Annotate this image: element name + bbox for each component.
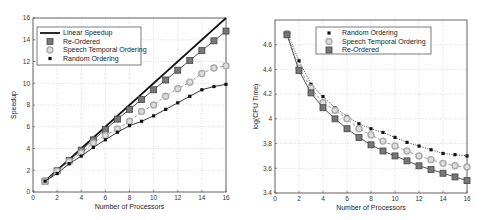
square-marker-icon xyxy=(416,163,422,169)
square-marker-icon xyxy=(199,48,205,54)
y-tick-label: 16 xyxy=(23,14,31,21)
square-marker-icon xyxy=(380,148,386,154)
dot-marker-icon xyxy=(176,101,179,104)
dot-marker-icon xyxy=(188,95,191,98)
circle-marker-icon xyxy=(102,132,108,138)
square-marker-icon xyxy=(127,106,133,112)
square-marker-icon xyxy=(211,38,217,44)
square-marker-icon xyxy=(114,116,120,122)
square-marker-icon xyxy=(464,178,470,184)
y-tick-label: 0 xyxy=(26,188,30,195)
dot-marker-icon xyxy=(68,162,71,165)
circle-marker-icon xyxy=(452,163,458,169)
y-tick-label: 12 xyxy=(23,58,31,65)
square-marker-icon xyxy=(175,67,181,73)
series-line xyxy=(287,35,467,181)
square-marker-icon xyxy=(368,142,374,148)
dot-marker-icon xyxy=(56,172,59,175)
circle-marker-icon xyxy=(428,157,434,163)
circle-marker-icon xyxy=(392,143,398,149)
circle-marker-icon xyxy=(90,140,96,146)
dot-marker-icon xyxy=(140,120,143,123)
y-tick-label: 2 xyxy=(26,167,30,174)
square-marker-icon xyxy=(151,87,157,93)
y-tick-label: 3.6 xyxy=(263,165,272,172)
figure-canvas: 02468101214160246810121416Number of Proc… xyxy=(0,0,484,220)
square-marker-icon xyxy=(223,28,229,34)
square-marker-icon xyxy=(356,134,362,140)
dot-marker-icon xyxy=(453,153,456,156)
dot-marker-icon xyxy=(441,152,444,155)
square-marker-icon xyxy=(308,90,314,96)
y-tick-label: 4.4 xyxy=(263,66,272,73)
dot-marker-icon xyxy=(164,108,167,111)
circle-marker-icon xyxy=(440,160,446,166)
y-tick-label: 3.4 xyxy=(263,189,272,196)
square-marker-icon xyxy=(440,170,446,176)
y-tick-label: 4.6 xyxy=(263,41,272,48)
dot-marker-icon xyxy=(381,131,384,134)
square-marker-icon xyxy=(320,105,326,111)
x-tick-label: 2 xyxy=(55,194,59,201)
y-tick-label: 6 xyxy=(26,123,30,130)
x-axis-label: Number of Processors xyxy=(336,204,406,211)
circle-marker-icon xyxy=(416,153,422,159)
x-tick-label: 0 xyxy=(31,194,35,201)
dot-marker-icon xyxy=(200,88,203,91)
circle-marker-icon xyxy=(404,148,410,154)
x-tick-label: 16 xyxy=(222,194,230,201)
speedup-chart: 02468101214160246810121416Number of Proc… xyxy=(10,14,230,210)
cpu-time-chart: 02468101214163.43.63.844.24.44.6Number o… xyxy=(252,20,471,211)
square-marker-icon xyxy=(47,39,53,45)
x-tick-label: 12 xyxy=(415,195,423,202)
dot-marker-icon xyxy=(224,83,227,86)
x-tick-label: 14 xyxy=(198,194,206,201)
legend-label: Re-Ordered xyxy=(63,38,100,45)
dot-marker-icon xyxy=(327,31,330,34)
circle-marker-icon xyxy=(326,39,332,45)
square-marker-icon xyxy=(139,97,145,103)
x-tick-label: 6 xyxy=(104,194,108,201)
x-tick-label: 0 xyxy=(273,195,277,202)
circle-marker-icon xyxy=(356,126,362,132)
legend-label: Random Ordering xyxy=(63,55,119,63)
y-axis-label: Speedup xyxy=(10,91,18,119)
square-marker-icon xyxy=(187,57,193,63)
circle-marker-icon xyxy=(175,86,181,92)
x-tick-label: 16 xyxy=(463,195,471,202)
square-marker-icon xyxy=(452,174,458,180)
circle-marker-icon xyxy=(211,65,217,71)
y-tick-label: 3.8 xyxy=(263,140,272,147)
y-tick-label: 4 xyxy=(26,145,30,152)
y-tick-label: 8 xyxy=(26,101,30,108)
legend: Linear SpeedupRe-OrderedSpeech Temporal … xyxy=(37,27,147,65)
y-tick-label: 14 xyxy=(23,36,31,43)
square-marker-icon xyxy=(392,153,398,159)
dot-marker-icon xyxy=(92,146,95,149)
dot-marker-icon xyxy=(43,180,46,183)
dot-marker-icon xyxy=(369,127,372,130)
circle-marker-icon xyxy=(47,47,53,53)
x-tick-label: 14 xyxy=(439,195,447,202)
legend-label: Random Ordering xyxy=(342,29,398,37)
x-tick-label: 6 xyxy=(345,195,349,202)
dot-marker-icon xyxy=(465,154,468,157)
y-tick-label: 4.2 xyxy=(263,90,272,97)
x-tick-label: 10 xyxy=(150,194,158,201)
square-marker-icon xyxy=(344,126,350,132)
x-tick-label: 4 xyxy=(79,194,83,201)
dot-marker-icon xyxy=(429,148,432,151)
y-axis-label: log(CPU Time) xyxy=(252,84,260,130)
circle-marker-icon xyxy=(163,93,169,99)
legend-label: Re-Ordered xyxy=(342,46,379,53)
dot-marker-icon xyxy=(393,136,396,139)
square-marker-icon xyxy=(163,77,169,83)
square-marker-icon xyxy=(428,167,434,173)
dot-marker-icon xyxy=(405,141,408,144)
dot-marker-icon xyxy=(80,155,83,158)
dot-marker-icon xyxy=(297,59,300,62)
circle-marker-icon xyxy=(368,132,374,138)
dot-marker-icon xyxy=(321,95,324,98)
circle-marker-icon xyxy=(151,102,157,108)
square-marker-icon xyxy=(332,116,338,122)
